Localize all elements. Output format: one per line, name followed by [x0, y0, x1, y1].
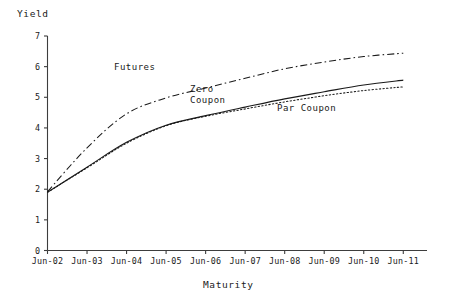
series-label-zero-coupon-line2: Coupon — [190, 95, 226, 105]
y-tick-label: 6 — [30, 62, 40, 72]
x-tick-label: Jun-06 — [190, 256, 221, 266]
x-tick-label: Jun-11 — [388, 256, 419, 266]
y-axis-title: Yield — [17, 8, 49, 19]
x-tick-label: Jun-05 — [150, 256, 181, 266]
x-tick-label: Jun-04 — [111, 256, 142, 266]
y-tick-label: 5 — [30, 92, 40, 102]
x-tick-label: Jun-09 — [308, 256, 339, 266]
series-group — [48, 53, 404, 192]
series-label-zero-coupon: Zero Coupon — [190, 84, 226, 106]
chart-canvas — [0, 0, 452, 301]
yield-curve-chart: Yield Maturity 01234567 Jun-02Jun-03Jun-… — [0, 0, 452, 301]
x-axis-title: Maturity — [203, 279, 254, 290]
series-line-futures — [48, 53, 404, 192]
x-tick-label: Jun-10 — [348, 256, 379, 266]
axes-group — [44, 36, 427, 254]
y-tick-label: 0 — [30, 246, 40, 256]
series-label-par-coupon: Par Coupon — [277, 103, 336, 114]
series-label-zero-coupon-line1: Zero — [190, 84, 214, 94]
x-tick-label: Jun-07 — [229, 256, 260, 266]
series-label-futures: Futures — [114, 62, 155, 73]
x-tick-label: Jun-03 — [71, 256, 102, 266]
y-tick-label: 1 — [30, 215, 40, 225]
y-tick-label: 7 — [30, 31, 40, 41]
y-tick-label: 3 — [30, 154, 40, 164]
y-tick-label: 4 — [30, 123, 40, 133]
x-tick-label: Jun-02 — [32, 256, 63, 266]
x-tick-label: Jun-08 — [269, 256, 300, 266]
y-tick-label: 2 — [30, 184, 40, 194]
